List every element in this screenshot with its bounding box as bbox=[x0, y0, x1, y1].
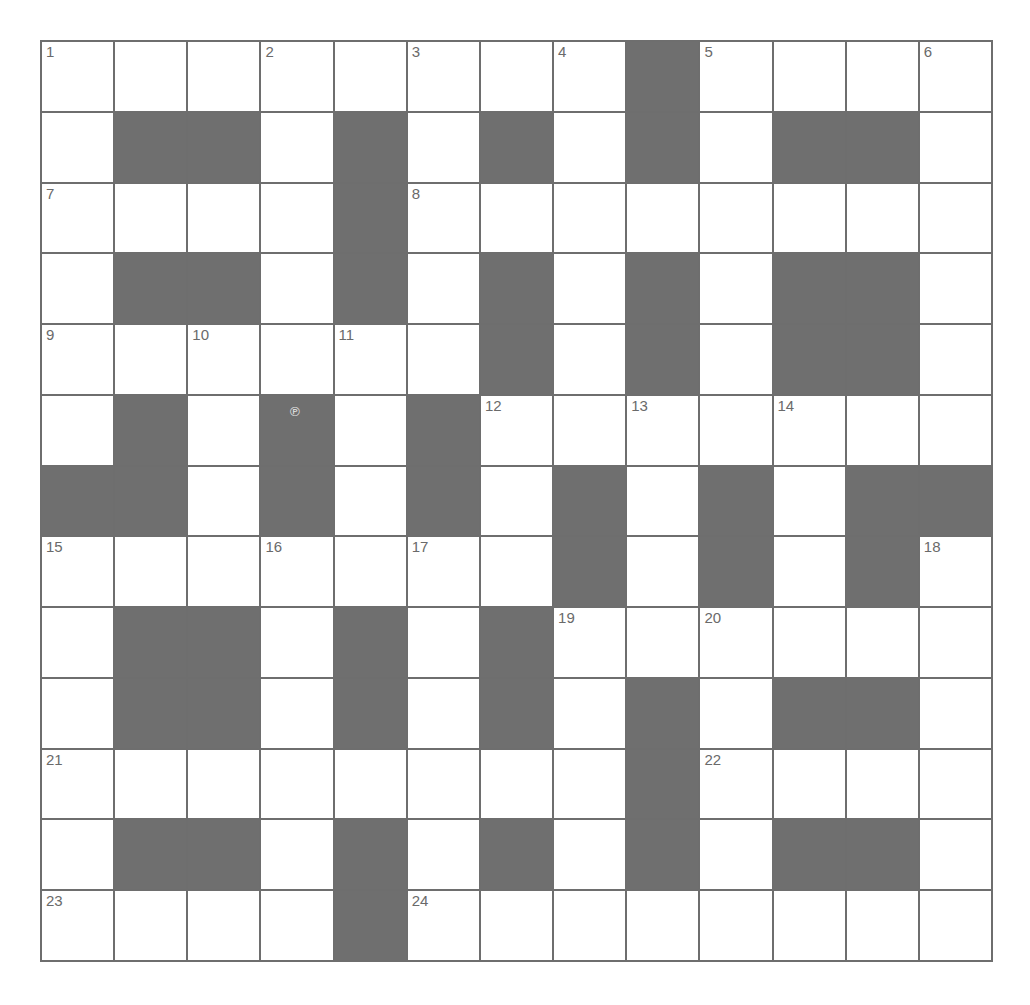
answer-cell[interactable]: 18 bbox=[920, 537, 991, 606]
answer-cell[interactable] bbox=[335, 537, 406, 606]
answer-cell[interactable]: 23 bbox=[42, 891, 113, 960]
answer-cell[interactable]: 14 bbox=[774, 396, 845, 465]
answer-cell[interactable] bbox=[408, 113, 479, 182]
answer-cell[interactable] bbox=[115, 184, 186, 253]
answer-cell[interactable] bbox=[920, 396, 991, 465]
answer-cell[interactable] bbox=[700, 679, 771, 748]
answer-cell[interactable] bbox=[188, 750, 259, 819]
answer-cell[interactable] bbox=[700, 254, 771, 323]
answer-cell[interactable] bbox=[261, 750, 332, 819]
answer-cell[interactable] bbox=[408, 254, 479, 323]
answer-cell[interactable] bbox=[261, 608, 332, 677]
answer-cell[interactable]: 13 bbox=[627, 396, 698, 465]
answer-cell[interactable] bbox=[115, 537, 186, 606]
answer-cell[interactable]: 7 bbox=[42, 184, 113, 253]
answer-cell[interactable] bbox=[408, 608, 479, 677]
answer-cell[interactable]: 19 bbox=[554, 608, 625, 677]
answer-cell[interactable] bbox=[700, 325, 771, 394]
answer-cell[interactable] bbox=[408, 750, 479, 819]
answer-cell[interactable] bbox=[554, 184, 625, 253]
answer-cell[interactable] bbox=[481, 467, 552, 536]
answer-cell[interactable] bbox=[847, 891, 918, 960]
answer-cell[interactable]: 4 bbox=[554, 42, 625, 111]
answer-cell[interactable] bbox=[774, 891, 845, 960]
answer-cell[interactable] bbox=[774, 750, 845, 819]
answer-cell[interactable] bbox=[847, 750, 918, 819]
answer-cell[interactable] bbox=[554, 750, 625, 819]
answer-cell[interactable]: 20 bbox=[700, 608, 771, 677]
answer-cell[interactable] bbox=[774, 608, 845, 677]
answer-cell[interactable] bbox=[920, 184, 991, 253]
answer-cell[interactable] bbox=[554, 254, 625, 323]
answer-cell[interactable] bbox=[700, 820, 771, 889]
answer-cell[interactable] bbox=[42, 396, 113, 465]
answer-cell[interactable] bbox=[408, 820, 479, 889]
answer-cell[interactable] bbox=[920, 113, 991, 182]
answer-cell[interactable] bbox=[408, 325, 479, 394]
answer-cell[interactable] bbox=[847, 184, 918, 253]
answer-cell[interactable] bbox=[188, 42, 259, 111]
answer-cell[interactable] bbox=[42, 820, 113, 889]
answer-cell[interactable] bbox=[700, 891, 771, 960]
answer-cell[interactable]: 16 bbox=[261, 537, 332, 606]
answer-cell[interactable] bbox=[42, 113, 113, 182]
answer-cell[interactable] bbox=[261, 325, 332, 394]
answer-cell[interactable] bbox=[261, 891, 332, 960]
answer-cell[interactable] bbox=[920, 325, 991, 394]
answer-cell[interactable] bbox=[115, 42, 186, 111]
answer-cell[interactable] bbox=[481, 537, 552, 606]
answer-cell[interactable] bbox=[42, 679, 113, 748]
answer-cell[interactable] bbox=[188, 891, 259, 960]
answer-cell[interactable] bbox=[335, 396, 406, 465]
answer-cell[interactable] bbox=[700, 396, 771, 465]
answer-cell[interactable]: 17 bbox=[408, 537, 479, 606]
answer-cell[interactable]: 10 bbox=[188, 325, 259, 394]
answer-cell[interactable] bbox=[188, 184, 259, 253]
answer-cell[interactable]: 2 bbox=[261, 42, 332, 111]
answer-cell[interactable] bbox=[261, 113, 332, 182]
answer-cell[interactable]: 24 bbox=[408, 891, 479, 960]
answer-cell[interactable] bbox=[920, 254, 991, 323]
answer-cell[interactable] bbox=[774, 184, 845, 253]
answer-cell[interactable] bbox=[627, 467, 698, 536]
answer-cell[interactable] bbox=[700, 184, 771, 253]
answer-cell[interactable] bbox=[335, 42, 406, 111]
answer-cell[interactable] bbox=[700, 113, 771, 182]
answer-cell[interactable]: 21 bbox=[42, 750, 113, 819]
answer-cell[interactable] bbox=[554, 679, 625, 748]
answer-cell[interactable]: 12 bbox=[481, 396, 552, 465]
answer-cell[interactable] bbox=[627, 891, 698, 960]
answer-cell[interactable] bbox=[481, 184, 552, 253]
answer-cell[interactable] bbox=[920, 750, 991, 819]
answer-cell[interactable] bbox=[481, 750, 552, 819]
answer-cell[interactable] bbox=[115, 325, 186, 394]
answer-cell[interactable]: 5 bbox=[700, 42, 771, 111]
answer-cell[interactable] bbox=[408, 679, 479, 748]
answer-cell[interactable]: 9 bbox=[42, 325, 113, 394]
answer-cell[interactable] bbox=[115, 750, 186, 819]
answer-cell[interactable] bbox=[481, 891, 552, 960]
answer-cell[interactable] bbox=[554, 325, 625, 394]
answer-cell[interactable] bbox=[920, 820, 991, 889]
answer-cell[interactable] bbox=[774, 467, 845, 536]
answer-cell[interactable] bbox=[188, 537, 259, 606]
answer-cell[interactable] bbox=[42, 608, 113, 677]
answer-cell[interactable] bbox=[554, 891, 625, 960]
answer-cell[interactable]: 8 bbox=[408, 184, 479, 253]
answer-cell[interactable] bbox=[847, 608, 918, 677]
answer-cell[interactable] bbox=[42, 254, 113, 323]
answer-cell[interactable]: 3 bbox=[408, 42, 479, 111]
answer-cell[interactable] bbox=[920, 608, 991, 677]
answer-cell[interactable]: 1 bbox=[42, 42, 113, 111]
answer-cell[interactable] bbox=[627, 537, 698, 606]
answer-cell[interactable] bbox=[261, 820, 332, 889]
answer-cell[interactable] bbox=[774, 42, 845, 111]
answer-cell[interactable] bbox=[335, 467, 406, 536]
answer-cell[interactable]: 11 bbox=[335, 325, 406, 394]
answer-cell[interactable] bbox=[774, 537, 845, 606]
answer-cell[interactable] bbox=[188, 467, 259, 536]
answer-cell[interactable] bbox=[115, 891, 186, 960]
answer-cell[interactable]: 22 bbox=[700, 750, 771, 819]
answer-cell[interactable] bbox=[920, 891, 991, 960]
answer-cell[interactable] bbox=[920, 679, 991, 748]
